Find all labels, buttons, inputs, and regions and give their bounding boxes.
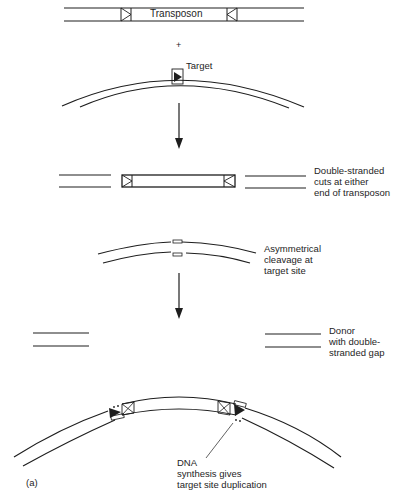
caption-line: stranded gap bbox=[329, 347, 384, 358]
arrow-down-icon bbox=[175, 273, 183, 319]
cleaved-target-arc bbox=[98, 240, 256, 263]
excised-transposon bbox=[59, 175, 306, 188]
target-label: Target bbox=[186, 60, 212, 71]
caption-line: target site bbox=[264, 265, 321, 276]
caption-line: cleavage at bbox=[264, 254, 321, 265]
transposition-diagram bbox=[0, 0, 413, 499]
caption-line: Donor bbox=[329, 325, 384, 336]
left-inverted-repeat-icon bbox=[122, 175, 132, 187]
callout-line bbox=[206, 423, 233, 458]
cut-site-top-icon bbox=[173, 240, 182, 243]
left-inverted-repeat-icon bbox=[121, 8, 131, 21]
donor-with-gap bbox=[33, 333, 321, 347]
caption-line: Asymmetrical bbox=[264, 243, 321, 254]
transposon-label: Transposon bbox=[150, 8, 202, 19]
step4-caption: Donor with double- stranded gap bbox=[329, 325, 384, 358]
caption-line: target site duplication bbox=[177, 479, 267, 490]
caption-line: Double-stranded bbox=[314, 165, 390, 176]
cut-site-bottom-icon bbox=[173, 253, 182, 256]
step2-caption: Double-stranded cuts at either end of tr… bbox=[314, 165, 390, 198]
right-inverted-repeat-icon bbox=[224, 175, 235, 187]
arrow-down-icon bbox=[175, 103, 183, 149]
caption-line: synthesis gives bbox=[177, 468, 267, 479]
caption-line: with double- bbox=[329, 336, 384, 347]
plus-sign: + bbox=[176, 40, 181, 51]
left-inverted-repeat-icon bbox=[122, 402, 134, 415]
caption-line: DNA bbox=[177, 457, 267, 468]
target-dna-arc bbox=[62, 69, 304, 108]
step3-caption: Asymmetrical cleavage at target site bbox=[264, 243, 321, 276]
target-site-icon bbox=[172, 69, 183, 84]
right-inverted-repeat-icon bbox=[227, 8, 237, 21]
caption-line: end of transposon bbox=[314, 187, 390, 198]
caption-line: cuts at either bbox=[314, 176, 390, 187]
step5-caption: DNA synthesis gives target site duplicat… bbox=[177, 457, 267, 490]
panel-label: (a) bbox=[26, 477, 38, 488]
